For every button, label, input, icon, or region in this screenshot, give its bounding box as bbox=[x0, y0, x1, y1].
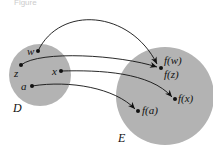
function-mapping-diagram: Figure w z x a D f(w) f(z) f(x) f(a) E bbox=[0, 0, 213, 153]
point-fa bbox=[136, 109, 140, 113]
point-w bbox=[36, 49, 40, 53]
label-fx: f(x) bbox=[178, 92, 194, 105]
label-set-e: E bbox=[117, 131, 126, 145]
point-z bbox=[19, 63, 23, 67]
label-fw: f(w) bbox=[164, 54, 182, 67]
point-fx bbox=[173, 97, 177, 101]
label-x: x bbox=[51, 65, 57, 77]
label-z: z bbox=[13, 67, 19, 79]
label-w: w bbox=[27, 45, 35, 57]
label-a: a bbox=[21, 80, 27, 92]
point-a bbox=[30, 84, 34, 88]
set-d-region bbox=[9, 44, 71, 106]
figure-caption-fragment: Figure bbox=[14, 0, 37, 7]
label-fz: f(z) bbox=[164, 68, 179, 81]
point-x bbox=[59, 69, 63, 73]
point-fw-fz bbox=[159, 66, 163, 70]
label-set-d: D bbox=[12, 101, 22, 115]
label-fa: f(a) bbox=[142, 104, 158, 117]
